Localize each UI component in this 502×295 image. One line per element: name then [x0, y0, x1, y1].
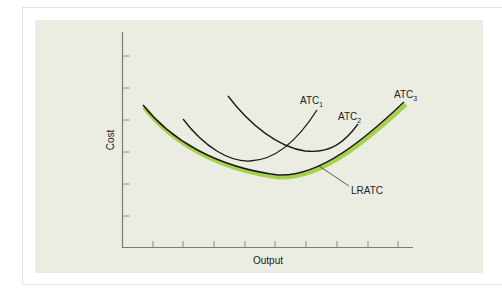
x-axis-label: Output — [253, 255, 283, 266]
axes — [122, 32, 413, 248]
atc2-curve — [228, 96, 358, 151]
lratc-label: LRATC — [351, 185, 383, 196]
y-axis-label: Cost — [105, 129, 116, 150]
lratc-leader-line — [319, 166, 349, 186]
x-axis-ticks — [153, 241, 398, 247]
atc2-label: ATC2 — [338, 111, 361, 124]
atc1-label: ATC1 — [300, 95, 323, 108]
atc3-label: ATC3 — [394, 89, 417, 102]
